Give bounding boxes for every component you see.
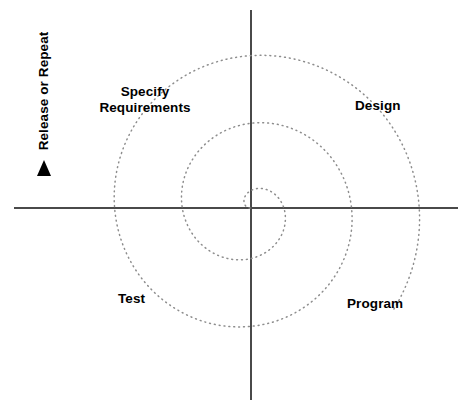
phase-label-specify-requirements: Specify Requirements: [92, 84, 198, 116]
phase-label-program: Program: [347, 296, 403, 312]
phase-label-test: Test: [118, 291, 145, 307]
phase-label-release-or-repeat: Release or Repeat: [36, 28, 52, 154]
phase-label-specify-requirements-line2: Requirements: [99, 100, 190, 115]
spiral-arrowhead-icon: [37, 160, 51, 176]
phase-label-design: Design: [355, 98, 401, 114]
phase-label-specify-requirements-line1: Specify: [121, 84, 170, 99]
spiral-model-diagram: Specify Requirements Design Test Program…: [0, 0, 471, 415]
spiral-diagram-canvas: [0, 0, 471, 415]
